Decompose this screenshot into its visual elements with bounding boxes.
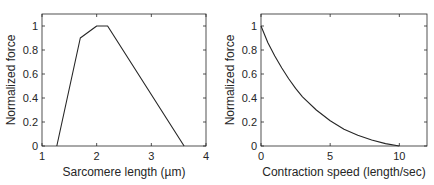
figure: 00.20.40.60.811234Sarcomere length (µm)N… — [0, 0, 434, 185]
x-tick-label: 1 — [39, 150, 45, 162]
y-tick-label: 0 — [251, 140, 257, 152]
x-tick-label: 2 — [94, 150, 100, 162]
y-tick-label: 0.8 — [242, 44, 257, 56]
y-tick-label: 0.4 — [23, 92, 38, 104]
y-tick-label: 0.2 — [23, 116, 38, 128]
chart-1: 00.20.40.60.811234Sarcomere length (µm)N… — [4, 14, 209, 179]
y-tick-label: 0 — [32, 140, 38, 152]
x-axis-label: Sarcomere length (µm) — [63, 165, 186, 179]
x-tick-label: 4 — [203, 150, 209, 162]
y-tick-label: 0.6 — [242, 68, 257, 80]
x-tick-label: 3 — [148, 150, 154, 162]
y-tick-label: 0.8 — [23, 44, 38, 56]
y-axis-label: Normalized force — [223, 34, 237, 125]
y-tick-label: 0.4 — [242, 92, 257, 104]
y-tick-label: 1 — [251, 20, 257, 32]
x-tick-label: 0 — [258, 150, 264, 162]
y-tick-label: 0.6 — [23, 68, 38, 80]
y-tick-label: 0.2 — [242, 116, 257, 128]
x-tick-label: 5 — [327, 150, 333, 162]
plot-frame — [261, 14, 427, 146]
chart-2: 00.20.40.60.810510Contraction speed (len… — [223, 14, 427, 179]
x-axis-label: Contraction speed (length/sec) — [262, 165, 425, 179]
y-axis-label: Normalized force — [4, 34, 18, 125]
x-tick-label: 10 — [393, 150, 405, 162]
y-tick-label: 1 — [32, 20, 38, 32]
plot-frame — [42, 14, 206, 146]
